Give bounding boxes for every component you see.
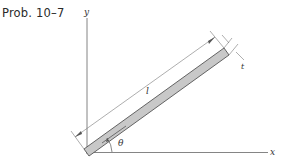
thickness-arrow-1: [222, 35, 229, 43]
thickness-arrow-2: [236, 52, 244, 60]
length-arrow-end: [208, 37, 215, 44]
length-arrow-start: [75, 131, 82, 137]
y-axis-label: y: [83, 7, 90, 17]
x-axis-label: x: [270, 147, 275, 157]
slender-bar: [84, 48, 229, 156]
thickness-label: t: [241, 62, 245, 71]
angle-label: θ: [118, 138, 124, 148]
thickness-extension-1: [224, 38, 232, 48]
length-dimension-line: [75, 37, 215, 137]
length-extension-start: [71, 131, 84, 149]
diagram: y x l t θ: [0, 0, 281, 161]
thickness-extension-2: [229, 44, 238, 55]
length-label: l: [146, 86, 149, 96]
